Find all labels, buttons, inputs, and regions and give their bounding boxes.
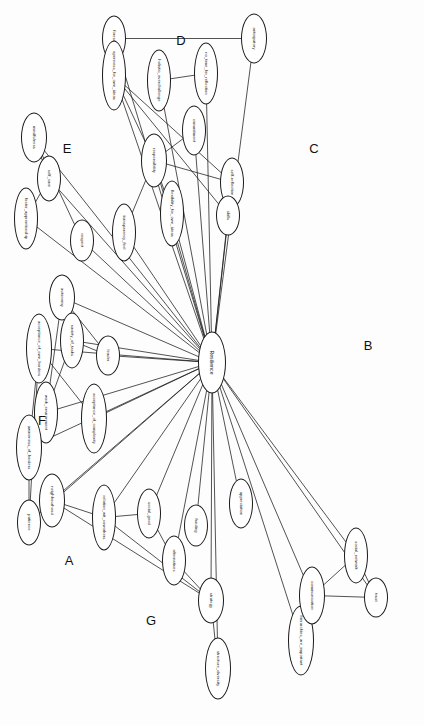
cluster-letter-E: E bbox=[63, 141, 72, 156]
node-label: alternatives bbox=[172, 549, 176, 571]
graph-edge bbox=[134, 246, 202, 346]
graph-edge bbox=[323, 564, 346, 584]
node-mindfulness[interactable]: mindfulness bbox=[21, 112, 47, 162]
node-label: self-reflection bbox=[230, 169, 234, 195]
node-structure_diversity[interactable]: structure_diversity bbox=[205, 637, 231, 699]
graph-edge bbox=[213, 622, 215, 639]
graph-edge bbox=[74, 302, 200, 356]
node-flexibility_for_own_ideas[interactable]: flexibility_for_own_ideas bbox=[160, 180, 184, 246]
node-label: Resilience bbox=[210, 350, 215, 374]
node-label: strategy bbox=[209, 592, 213, 607]
node-relation_wit_coworkers[interactable]: relation_wit_coworkers bbox=[92, 484, 116, 550]
node-label: patience bbox=[27, 514, 31, 530]
node-label: commitment bbox=[192, 118, 196, 141]
node-communication[interactable]: communication bbox=[299, 566, 325, 624]
node-strategy[interactable]: strategy bbox=[198, 577, 224, 623]
cluster-letter-A: A bbox=[65, 553, 74, 568]
graph-edge bbox=[41, 368, 199, 442]
node-acceptance_of_own_borders[interactable]: acceptance_of_own_borders bbox=[26, 313, 52, 383]
node-label: structure_diversity bbox=[216, 650, 220, 685]
node-label: mindfulness bbox=[32, 126, 36, 149]
node-alternatives[interactable]: alternatives bbox=[162, 535, 186, 585]
graph-edge bbox=[211, 392, 212, 578]
node-label: variety_of_tasks bbox=[70, 324, 74, 355]
node-label: skills bbox=[226, 210, 230, 219]
node-leader[interactable]: leader bbox=[96, 335, 120, 375]
node-label: responsibility bbox=[152, 147, 156, 172]
graph-edge bbox=[54, 360, 65, 390]
cluster-letter-F: F bbox=[38, 413, 46, 428]
node-label: anticipatory bbox=[252, 27, 256, 49]
node-appreciation[interactable]: appreciation bbox=[229, 478, 253, 528]
graph-edge bbox=[166, 163, 221, 179]
node-label: social_good bbox=[147, 502, 151, 525]
diagram-rotated-layer: anticipatoryforesightno_time_for_reflect… bbox=[0, 0, 424, 725]
node-label: awareness_of_borders bbox=[27, 425, 31, 469]
node-label: appreciation bbox=[239, 491, 243, 515]
node-self_care[interactable]: self_care bbox=[37, 155, 61, 201]
cluster-letter-G: G bbox=[146, 613, 156, 628]
node-respect[interactable]: respect bbox=[70, 219, 94, 261]
graph-edge bbox=[196, 154, 210, 333]
graph-edge bbox=[218, 389, 237, 481]
node-label: acceptance_of_complexity bbox=[92, 393, 96, 444]
node-label: acceptance_of_own_borders bbox=[37, 320, 41, 375]
graph-edge bbox=[156, 384, 203, 496]
node-foster_apprenticeship[interactable]: foster_apprenticeship bbox=[14, 187, 38, 249]
node-transparency_feel[interactable]: transparency_feel bbox=[112, 203, 136, 261]
node-social_network[interactable]: social_network bbox=[344, 527, 368, 583]
node-variety_of_tasks[interactable]: variety_of_tasks bbox=[60, 312, 84, 368]
node-label: openness_for_own_ideas bbox=[112, 51, 116, 100]
node-social_good[interactable]: social_good bbox=[137, 488, 161, 538]
node-trust[interactable]: trust bbox=[364, 577, 388, 617]
node-openness_for_own_ideas[interactable]: openness_for_own_ideas bbox=[102, 40, 126, 110]
graph-edge bbox=[114, 378, 201, 503]
graph-edge bbox=[324, 595, 365, 596]
node-label: no_time_for_reflection bbox=[204, 52, 208, 95]
graph-edge bbox=[132, 179, 146, 212]
node-skills[interactable]: skills bbox=[216, 195, 240, 235]
graph-edge bbox=[215, 234, 226, 333]
graph-edge bbox=[83, 345, 97, 351]
node-label: autonomy bbox=[60, 288, 64, 307]
node-neighbourhood[interactable]: neighbourhood bbox=[39, 473, 65, 527]
node-label: flexibility_for_own_ideas bbox=[170, 190, 174, 237]
graph-edge bbox=[64, 504, 93, 514]
node-label: communication bbox=[310, 581, 314, 610]
node-label: social_network bbox=[354, 541, 358, 569]
node-label: funding bbox=[194, 518, 198, 532]
diagram-canvas: anticipatoryforesightno_time_for_reflect… bbox=[0, 0, 424, 725]
node-label: holistic_overchallenge bbox=[157, 59, 161, 101]
node-label: respect bbox=[80, 233, 84, 247]
node-anticipatory[interactable]: anticipatory bbox=[241, 13, 267, 63]
cluster-letter-D: D bbox=[176, 33, 185, 48]
cluster-letter-C: C bbox=[309, 141, 318, 156]
node-label: transparency_feel bbox=[122, 215, 126, 249]
node-label: relation_wit_coworkers bbox=[102, 495, 106, 539]
node-no_time_for_reflection[interactable]: no_time_for_reflection bbox=[194, 42, 218, 104]
node-label: foster_apprenticeship bbox=[24, 197, 28, 238]
node-funding[interactable]: funding bbox=[184, 504, 208, 546]
node-holistic_overchallenge[interactable]: holistic_overchallenge bbox=[147, 49, 171, 111]
graph-edge bbox=[221, 383, 303, 575]
graph-edge bbox=[115, 514, 138, 516]
node-label: hierarchies_are_important bbox=[299, 615, 303, 665]
node-label: neighbourhood bbox=[50, 486, 54, 515]
cluster-letter-B: B bbox=[364, 338, 373, 353]
graph-edge bbox=[157, 529, 165, 545]
node-responsibility[interactable]: responsibility bbox=[141, 133, 167, 187]
node-acceptance_of_complexity[interactable]: acceptance_of_complexity bbox=[81, 383, 107, 453]
node-resilience[interactable]: Resilience bbox=[198, 331, 226, 393]
node-label: leader bbox=[106, 349, 110, 361]
graph-edge bbox=[170, 75, 195, 79]
node-label: self_care bbox=[47, 169, 51, 187]
graph-edge bbox=[179, 238, 205, 336]
node-patience[interactable]: patience bbox=[17, 499, 41, 545]
node-commitment[interactable]: commitment bbox=[182, 105, 206, 155]
node-label: trust bbox=[374, 593, 378, 601]
